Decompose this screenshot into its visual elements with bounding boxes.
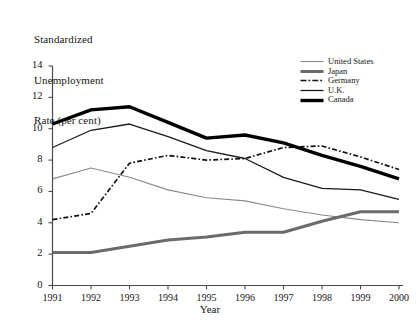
y-tick-label: 10 xyxy=(21,122,43,133)
legend-label: Canada xyxy=(328,95,354,105)
legend-swatch-icon xyxy=(300,86,324,95)
y-tick-label: 14 xyxy=(21,59,43,70)
x-axis-title: Year xyxy=(0,303,420,315)
y-tick-label: 12 xyxy=(21,90,43,101)
y-tick-label: 0 xyxy=(21,279,43,290)
x-tick-label: 1993 xyxy=(108,292,152,303)
x-tick-label: 1991 xyxy=(31,292,75,303)
legend-swatch-icon xyxy=(300,96,324,105)
series-line-canada xyxy=(53,107,400,179)
chart-figure: Standardized Unemployment Rate (per cent… xyxy=(0,0,420,324)
x-tick-label: 1997 xyxy=(262,292,306,303)
chart-legend: United StatesJapanGermanyU.K.Canada xyxy=(300,57,374,105)
x-tick-label: 1998 xyxy=(300,292,344,303)
x-tick-label: 1999 xyxy=(339,292,383,303)
y-tick-label: 2 xyxy=(21,247,43,258)
y-tick-label: 6 xyxy=(21,184,43,195)
x-tick-label: 1996 xyxy=(223,292,267,303)
legend-swatch-icon xyxy=(300,67,324,76)
y-axis-title-line-1: Standardized xyxy=(34,33,104,47)
y-axis-title-line-3: Rate (per cent) xyxy=(34,114,104,128)
legend-swatch-icon xyxy=(300,57,324,66)
legend-item[interactable]: Canada xyxy=(300,95,374,105)
y-tick-label: 8 xyxy=(21,153,43,164)
y-axis-title-line-2: Unemployment xyxy=(34,74,104,88)
series-line-germany xyxy=(53,146,400,220)
x-tick-label: 1994 xyxy=(146,292,190,303)
x-tick-label: 1992 xyxy=(69,292,113,303)
x-tick-label: 1995 xyxy=(185,292,229,303)
y-tick-label: 4 xyxy=(21,216,43,227)
legend-swatch-icon xyxy=(300,76,324,85)
y-axis-title: Standardized Unemployment Rate (per cent… xyxy=(34,6,104,155)
x-tick-label: 2000 xyxy=(377,292,420,303)
